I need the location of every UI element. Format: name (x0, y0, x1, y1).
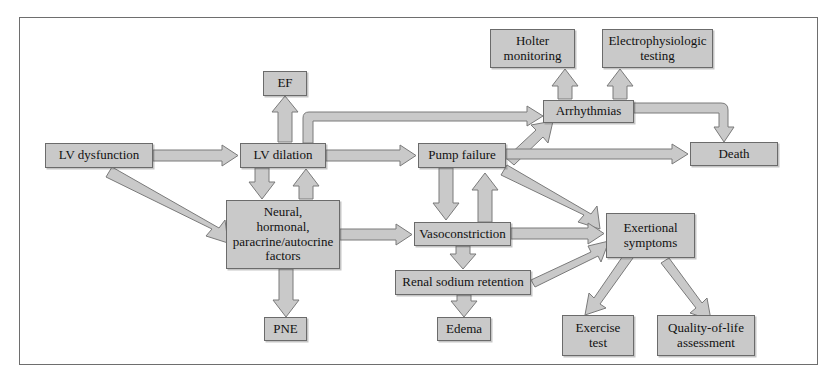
node-neural-factors[interactable]: Neural,hormonal,paracrine/autocrinefacto… (226, 200, 340, 269)
node-label: Quality-of-lifeassessment (668, 321, 744, 350)
node-exertional-symptoms[interactable]: Exertionalsymptoms (606, 213, 695, 258)
node-label: Pump failure (428, 148, 496, 163)
node-vasoconstriction[interactable]: Vasoconstriction (414, 222, 511, 246)
node-lv-dilation[interactable]: LV dilation (240, 143, 326, 168)
node-electrophysiologic-testing[interactable]: Electrophysiologictesting (602, 29, 713, 68)
node-label: Exertionalsymptoms (623, 221, 677, 250)
node-label: Exercisetest (576, 321, 621, 350)
node-arrhythmias[interactable]: Arrhythmias (543, 100, 634, 123)
node-label: Electrophysiologictesting (608, 34, 706, 63)
node-label: Neural,hormonal,paracrine/autocrinefacto… (233, 205, 333, 263)
node-label: LV dilation (254, 148, 313, 163)
node-pne[interactable]: PNE (264, 317, 307, 341)
node-ef[interactable]: EF (263, 71, 307, 96)
node-label: LV dysfunction (59, 148, 140, 163)
node-holter-monitoring[interactable]: Holtermonitoring (490, 29, 575, 68)
node-death[interactable]: Death (690, 142, 778, 166)
node-pump-failure[interactable]: Pump failure (418, 143, 506, 168)
node-label: Edema (446, 322, 482, 337)
diagram-canvas: LV dysfunction LV dilation EF Neural,hor… (0, 0, 836, 383)
node-label: Vasoconstriction (419, 227, 506, 242)
node-renal-sodium-retention[interactable]: Renal sodium retention (395, 270, 531, 295)
node-label: EF (277, 76, 292, 91)
diagram-frame (19, 17, 818, 365)
node-label: Holtermonitoring (504, 34, 562, 63)
node-edema[interactable]: Edema (437, 317, 491, 341)
node-lv-dysfunction[interactable]: LV dysfunction (45, 143, 153, 168)
node-label: Renal sodium retention (402, 275, 523, 290)
node-label: Arrhythmias (556, 104, 622, 119)
node-quality-of-life-assessment[interactable]: Quality-of-lifeassessment (657, 315, 755, 356)
node-label: Death (718, 147, 749, 162)
node-exercise-test[interactable]: Exercisetest (562, 315, 634, 356)
node-label: PNE (273, 322, 298, 337)
